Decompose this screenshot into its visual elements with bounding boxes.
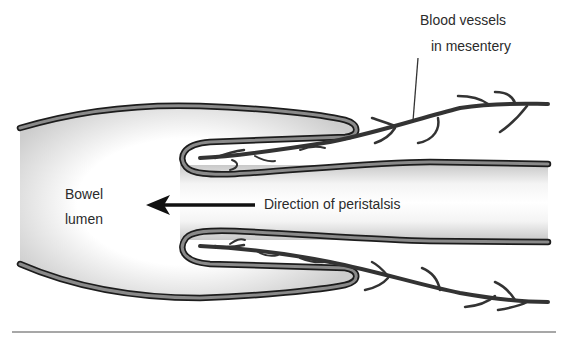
blood-vessels-label-line2: in mesentery	[431, 38, 511, 54]
blood-vessels-label-line1: Blood vessels	[420, 12, 506, 28]
bowel-lumen-label-line2: lumen	[65, 211, 103, 227]
vessels-leader-line	[413, 58, 418, 121]
bowel-lumen-label-line1: Bowel	[65, 186, 103, 202]
peristalsis-label: Direction of peristalsis	[264, 196, 400, 212]
